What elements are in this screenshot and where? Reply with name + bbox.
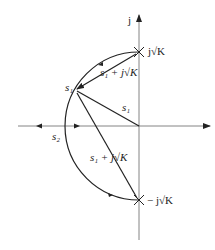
imag-axis-label: j: [127, 14, 131, 26]
upper-vector-label: s₁ + j√K: [100, 66, 138, 78]
s2-point-label: s₂: [52, 130, 60, 142]
s1-vector-label: s₁: [122, 101, 130, 113]
s1-point-label: s₁: [65, 81, 73, 93]
real-arrow-left: [36, 124, 42, 129]
bottom-pole-label: − j√K: [147, 194, 173, 206]
root-locus-diagram: j j√K − j√K s₁ + j√K s₁ s₁ s₂ s₁ + j√K: [0, 0, 215, 250]
top-pole-label: j√K: [147, 45, 165, 57]
real-arrow-right: [74, 124, 80, 129]
lower-vector-label: s₁ + j√K: [90, 151, 128, 163]
arc-arrow-lower: [108, 193, 113, 197]
